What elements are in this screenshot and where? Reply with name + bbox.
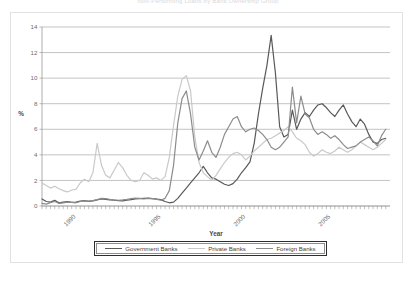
data-series (42, 35, 386, 204)
legend-item-private-banks[interactable]: Private Banks (188, 245, 246, 252)
legend-item-foreign-banks[interactable]: Foreign Banks (256, 245, 315, 252)
svg-text:1995: 1995 (147, 212, 162, 227)
svg-text:6: 6 (34, 125, 38, 132)
x-axis-ticks (42, 206, 390, 209)
svg-text:14: 14 (31, 23, 38, 30)
legend-label-foreign-banks: Foreign Banks (276, 245, 315, 252)
legend-swatch-foreign-banks (256, 248, 273, 249)
y-axis-ticks: 02468101214 (31, 23, 42, 209)
svg-text:4: 4 (34, 151, 38, 158)
svg-text:12: 12 (31, 49, 38, 56)
legend-inner: Government Banks Private Banks Foreign B… (96, 243, 325, 254)
svg-text:10: 10 (31, 74, 38, 81)
legend-label-government-banks: Government Banks (125, 245, 177, 252)
x-axis-tick-labels: 1990199520002005 (62, 212, 332, 227)
svg-text:2: 2 (34, 177, 38, 184)
y-axis-title: % (18, 110, 24, 117)
chart-plot-svg: 02468101214 1990199520002005 % Year (0, 0, 416, 281)
svg-text:2000: 2000 (232, 212, 247, 227)
x-axis-title: Year (209, 230, 223, 237)
svg-text:8: 8 (34, 100, 38, 107)
legend-swatch-government-banks (105, 248, 122, 249)
chart-container: Non-Performing Loans by Bank Ownership G… (0, 0, 416, 281)
svg-text:2005: 2005 (317, 212, 332, 227)
chart-legend: Government Banks Private Banks Foreign B… (94, 241, 327, 256)
legend-label-private-banks: Private Banks (208, 245, 246, 252)
legend-item-government-banks[interactable]: Government Banks (105, 245, 177, 252)
legend-swatch-private-banks (188, 248, 205, 249)
svg-text:1990: 1990 (62, 212, 77, 227)
svg-text:0: 0 (34, 202, 38, 209)
